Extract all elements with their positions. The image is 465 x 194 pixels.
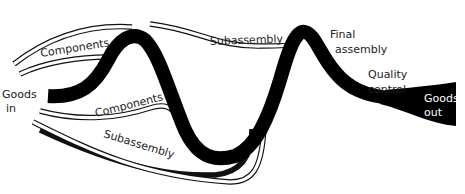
quality-control-label-line1: Quality <box>368 68 408 81</box>
subassembly-top-label: Subassembly <box>210 32 284 48</box>
final-assembly-label-line2: assembly <box>335 43 388 56</box>
quality-control-label-line2: control <box>368 83 406 96</box>
goods-out-label-line2: out <box>424 106 443 119</box>
production-flow-diagram: Goods in Components Subassembly Componen… <box>0 0 465 194</box>
goods-in-label-line1: Goods <box>2 88 37 101</box>
goods-in-label-line2: in <box>6 102 16 115</box>
final-assembly-label-line1: Final <box>330 28 355 41</box>
diagram-canvas: Goods in Components Subassembly Componen… <box>0 0 465 194</box>
goods-out-label-line1: Goods <box>424 92 459 105</box>
